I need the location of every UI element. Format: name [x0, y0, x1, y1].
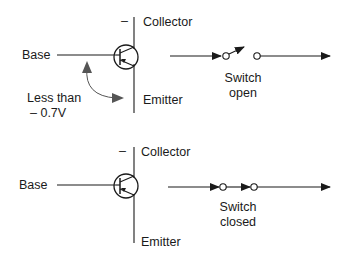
transistor-switch-diagram: Base – Collector Emitter Less than – 0.7…: [0, 0, 349, 269]
npn-transistor-icon: [114, 45, 138, 69]
voltage-label-line1: Less than: [27, 91, 81, 105]
collector-label: Collector: [141, 145, 190, 159]
switch-open-label-line2: open: [219, 86, 267, 100]
switch-closed-label-line1: Switch: [214, 200, 262, 214]
emitter-label: Emitter: [143, 93, 183, 107]
base-label: Base: [19, 178, 48, 192]
emitter-label: Emitter: [141, 235, 181, 249]
minus-sign-label: –: [119, 144, 126, 158]
switch-closed-label-line2: closed: [214, 215, 262, 229]
curved-arrow-icon: [82, 61, 124, 103]
voltage-label-line2: – 0.7V: [30, 106, 66, 120]
minus-sign-label: –: [121, 14, 128, 28]
base-label: Base: [22, 48, 51, 62]
panel-off: [57, 17, 330, 113]
npn-transistor-icon: [114, 174, 138, 198]
switch-open-symbol: [170, 47, 330, 59]
panel-on: [57, 147, 330, 243]
diagram-graphics: [0, 0, 349, 269]
switch-closed-symbol: [168, 184, 330, 190]
collector-label: Collector: [143, 15, 192, 29]
switch-open-label-line1: Switch: [219, 71, 267, 85]
